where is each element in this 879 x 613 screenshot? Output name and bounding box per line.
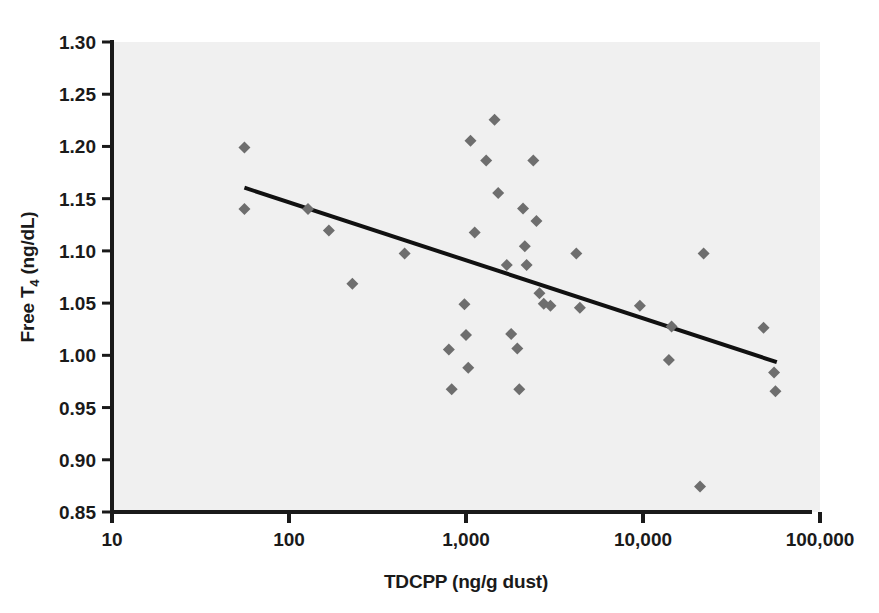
y-tick-label: 0.85 — [59, 502, 96, 523]
y-tick-label: 1.00 — [59, 345, 96, 366]
x-tick-label: 10,000 — [614, 529, 672, 550]
y-tick-label: 1.25 — [59, 84, 96, 105]
x-axis-title: TDCPP (ng/g dust) — [384, 571, 548, 592]
svg-text:Free T4 (ng/dL): Free T4 (ng/dL) — [17, 212, 42, 343]
y-axis-title-units: (ng/dL) — [17, 212, 38, 280]
y-tick-label: 1.15 — [59, 189, 96, 210]
y-tick-label: 1.05 — [59, 293, 96, 314]
plot-background — [112, 42, 820, 512]
y-tick-label: 1.30 — [59, 32, 96, 53]
y-axis-title: Free T4 (ng/dL) — [17, 212, 42, 343]
y-tick-label: 0.90 — [59, 450, 96, 471]
scatter-plot: 101001,00010,000100,000 0.850.900.951.00… — [0, 0, 879, 613]
y-axis-title-main: Free T — [17, 286, 38, 342]
x-tick-label: 1,000 — [442, 529, 490, 550]
y-axis-ticks: 0.850.900.951.001.051.101.151.201.251.30 — [59, 32, 112, 523]
y-tick-label: 1.20 — [59, 136, 96, 157]
x-tick-label: 10 — [101, 529, 122, 550]
y-tick-label: 1.10 — [59, 241, 96, 262]
y-tick-label: 0.95 — [59, 398, 96, 419]
x-axis-ticks: 101001,00010,000100,000 — [101, 512, 854, 550]
x-tick-label: 100 — [273, 529, 305, 550]
chart-figure: 101001,00010,000100,000 0.850.900.951.00… — [0, 0, 879, 613]
x-tick-label: 100,000 — [786, 529, 855, 550]
